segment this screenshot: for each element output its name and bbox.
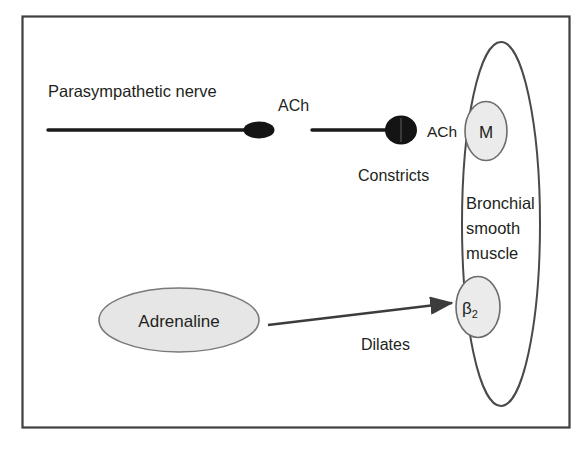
adrenaline-label: Adrenaline: [138, 312, 219, 331]
bronchial-label-line3: muscle: [466, 244, 518, 262]
muscarinic-receptor-text: M: [479, 123, 493, 142]
bronchial-label-line2: smooth: [466, 219, 520, 237]
nerve-terminal-varicosity-1: [244, 122, 275, 139]
bronchial-smooth-muscle-diagram: Parasympathetic nerve ACh ACh Constricts…: [0, 0, 585, 452]
dilates-arrow: [268, 303, 452, 325]
dilates-label: Dilates: [361, 336, 410, 353]
ach-synapse-label: ACh: [427, 123, 457, 140]
bronchial-label-line1: Bronchial: [466, 194, 535, 212]
figure-canvas: Parasympathetic nerve ACh ACh Constricts…: [0, 0, 585, 452]
constricts-label: Constricts: [358, 167, 429, 184]
beta2-receptor-subscript: 2: [472, 308, 478, 320]
beta2-receptor-symbol: β: [462, 299, 472, 318]
parasympathetic-nerve-label: Parasympathetic nerve: [48, 82, 217, 100]
ach-upper-label: ACh: [278, 97, 309, 114]
